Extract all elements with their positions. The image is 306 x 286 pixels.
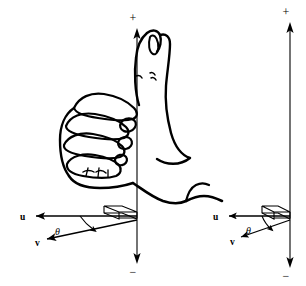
right-theta-arc xyxy=(262,216,271,229)
nail-1 xyxy=(83,171,94,173)
left-perpendicular-box xyxy=(104,206,137,219)
left-theta-arc xyxy=(80,216,94,230)
nail-line-2 xyxy=(98,168,99,177)
right-panel: u v θ + − xyxy=(213,5,294,283)
fingertip-pad-3 xyxy=(114,154,128,167)
thumb-crease-1 xyxy=(150,73,155,75)
left-panel: u v θ + − xyxy=(20,11,222,279)
nail-line-1 xyxy=(86,168,88,176)
figure-canvas: u v θ + − xyxy=(0,0,306,286)
right-theta-label: θ xyxy=(246,225,251,236)
right-axis-minus-label: − xyxy=(283,269,290,283)
wrist-top-contour xyxy=(133,183,186,203)
left-axis-minus-label: − xyxy=(130,265,137,279)
thumb-right-contour xyxy=(157,34,190,163)
thumbnail xyxy=(149,35,158,54)
right-vertical-axis xyxy=(286,22,293,268)
right-vector-u-label: u xyxy=(213,212,219,222)
left-vector-u-label: u xyxy=(20,212,26,222)
left-theta-label: θ xyxy=(55,226,60,237)
left-vector-v xyxy=(47,220,137,239)
left-axis-plus-label: + xyxy=(130,11,137,25)
nail-2 xyxy=(96,171,106,173)
right-vector-v-label: v xyxy=(230,237,235,247)
forearm-lower-contour xyxy=(186,196,222,201)
right-hand-rule-figure: u v θ + − xyxy=(0,0,306,286)
right-axis-plus-label: + xyxy=(283,5,290,19)
left-vector-v-label: v xyxy=(35,238,40,248)
right-hand-thumbs-up-illustration xyxy=(60,31,222,204)
right-perpendicular-box xyxy=(262,206,290,219)
thumb-crease-2 xyxy=(151,78,156,80)
